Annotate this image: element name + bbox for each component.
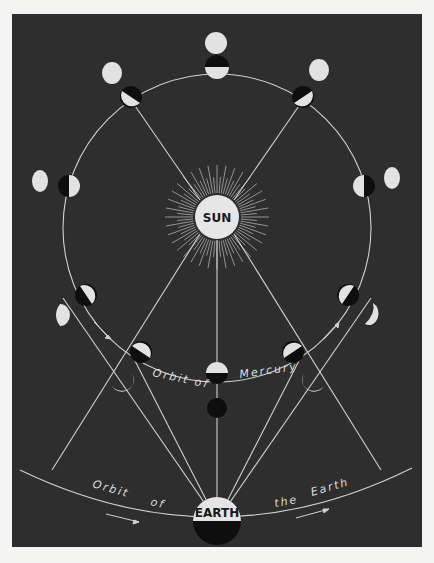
mercury-right <box>353 175 375 197</box>
earth: EARTH <box>193 497 241 545</box>
mercury-orbit-label-2: Mercury <box>239 360 299 381</box>
sun: SUN <box>195 195 239 239</box>
mercury-lower-left <box>75 284 97 306</box>
earth-orbit-label-1: Orbit <box>91 477 131 500</box>
phase-gibbous-right <box>384 167 400 189</box>
earth-orbit-label-3: the <box>273 493 299 510</box>
phase-full-top <box>205 32 227 54</box>
mercury-orbit-label-1: Orbit of <box>151 366 210 391</box>
phase-gibbous-upper-left <box>102 62 122 84</box>
mercury-lower-right <box>337 284 359 306</box>
earth-orbit-label-2: of <box>149 495 166 511</box>
mercury-top <box>205 55 229 79</box>
sun-label: SUN <box>203 211 231 225</box>
sight-lines <box>52 100 381 521</box>
earth-label: EARTH <box>195 506 239 520</box>
phase-gibbous-upper-right <box>309 59 329 81</box>
phase-gibbous-left <box>32 170 48 192</box>
mercury-bottom-left <box>130 341 152 363</box>
phase-half-left <box>56 304 70 326</box>
mercury-phases-diagram: SUN <box>0 0 434 563</box>
mercury-upper-left <box>120 86 142 108</box>
mercury-upper-right <box>292 86 314 108</box>
mercury-left <box>58 175 80 197</box>
phase-new-bottom <box>207 398 227 418</box>
phase-half-right <box>365 303 378 325</box>
phase-crescent-left <box>112 374 134 392</box>
